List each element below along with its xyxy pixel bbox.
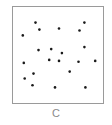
dot [31,84,34,87]
dot [83,46,86,49]
dot [58,60,61,63]
dot [23,77,26,80]
dot [38,28,41,31]
dot [34,21,37,24]
panel-caption: C [0,107,112,119]
dot [37,49,40,52]
dot [50,48,53,51]
dot [58,27,61,30]
dot [61,52,64,55]
dot [54,86,57,89]
scatter-panel [12,6,104,104]
dot [77,61,80,64]
dot [78,29,81,32]
dot [32,72,35,75]
dot [23,62,26,65]
dot [84,86,87,89]
dot [83,21,86,24]
dot-field [13,7,103,103]
dot [94,60,97,63]
dot [48,59,51,62]
dot [68,70,71,73]
dot [22,34,25,37]
